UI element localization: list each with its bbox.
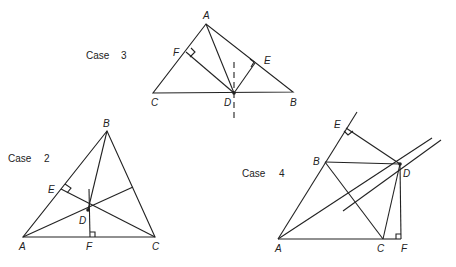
label-b: B: [290, 97, 297, 108]
label-e: E: [334, 119, 341, 130]
segment-a-bisector: [23, 187, 133, 237]
label-f: F: [173, 47, 180, 58]
case-2-title: Case: [8, 153, 32, 164]
figure-case-3: Case 3 A F E C D B: [86, 10, 297, 118]
point-d: [398, 162, 402, 166]
triangle-abc: [153, 24, 293, 93]
label-b: B: [103, 118, 110, 129]
geometry-figures: Case 3 A F E C D B Case 2 B E D A F C: [0, 0, 456, 267]
segment-df: [89, 189, 90, 237]
label-c: C: [152, 241, 160, 252]
label-a: A: [274, 243, 282, 254]
point-d: [86, 208, 90, 212]
case-4-number: 4: [279, 168, 285, 179]
right-angle-e: [344, 131, 353, 135]
segment-ed: [346, 128, 400, 164]
label-f: F: [86, 241, 93, 252]
case-4-title: Case: [242, 168, 266, 179]
segment-bc: [325, 162, 383, 239]
line-ab-extended: [278, 112, 357, 239]
label-c: C: [377, 243, 385, 254]
segment-bd: [325, 162, 400, 164]
triangle-abc: [23, 131, 155, 237]
segment-fd: [186, 52, 234, 93]
case-3-number: 3: [121, 50, 127, 61]
segment-df: [400, 164, 401, 239]
label-d: D: [79, 215, 86, 226]
label-b: B: [313, 156, 320, 167]
case-2-number: 2: [44, 153, 50, 164]
line-ad-extended: [278, 138, 432, 239]
label-a: A: [18, 241, 26, 252]
right-angle-f: [396, 234, 401, 239]
point-d: [232, 91, 236, 95]
right-angle-f: [190, 48, 195, 57]
label-d: D: [224, 97, 231, 108]
label-a: A: [202, 10, 210, 21]
case-3-title: Case: [86, 50, 110, 61]
figure-case-4: Case 4 E B D A C F: [242, 112, 441, 254]
label-f: F: [401, 243, 408, 254]
right-angle-f: [90, 232, 95, 237]
segment-ed: [234, 63, 255, 93]
figure-case-2: Case 2 B E D A F C: [8, 118, 160, 252]
label-e: E: [264, 55, 271, 66]
label-e: E: [48, 184, 55, 195]
label-d: D: [403, 168, 410, 179]
label-c: C: [151, 97, 159, 108]
